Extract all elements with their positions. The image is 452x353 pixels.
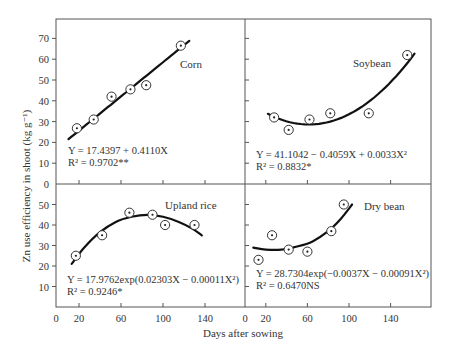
data-point xyxy=(161,220,170,229)
data-point xyxy=(89,115,98,124)
y-tick-label: 20 xyxy=(39,137,50,148)
fit-curve-dry-bean xyxy=(253,205,352,250)
data-point xyxy=(303,247,312,256)
y-tick-label: 30 xyxy=(39,241,50,252)
data-point xyxy=(326,109,335,118)
x-tick-label: 60 xyxy=(116,313,127,324)
data-point xyxy=(190,220,199,229)
equation-soybean: Y = 41.1042 − 0.4059X + 0.0033X² xyxy=(256,149,407,160)
y-tick-label: 30 xyxy=(39,117,50,128)
chart: 1020304050607001020304050020601001400206… xyxy=(0,0,452,353)
x-tick-label: 60 xyxy=(302,313,313,324)
data-point xyxy=(403,50,412,59)
data-point xyxy=(148,210,157,219)
x-tick-label: 0 xyxy=(53,313,58,324)
x-tick-label: 100 xyxy=(341,313,357,324)
data-point xyxy=(267,231,276,240)
y-tick-label: 10 xyxy=(39,282,50,293)
data-point xyxy=(107,92,116,101)
data-point xyxy=(72,124,81,133)
data-point xyxy=(125,208,134,217)
data-point xyxy=(327,227,336,236)
equation-upland-rice: Y = 17.9762exp(0.02303X − 0.00011X²) xyxy=(67,274,239,286)
x-tick-label: 20 xyxy=(74,313,85,324)
data-point xyxy=(98,231,107,240)
r2-upland-rice: R² = 0.9246* xyxy=(67,286,122,297)
y-tick-label: 50 xyxy=(39,200,50,211)
data-point xyxy=(284,245,293,254)
x-tick-label: 140 xyxy=(383,313,399,324)
y-axis-title: Zn use efficiency in shoot (kg g⁻¹) xyxy=(20,109,33,262)
y-tick-label: 60 xyxy=(39,54,50,65)
equation-corn: Y = 17.4397 + 0.4110X xyxy=(68,145,168,156)
x-tick-label: 20 xyxy=(261,313,272,324)
data-point xyxy=(71,251,80,260)
y-tick-label: 40 xyxy=(39,96,50,107)
x-tick-label: 100 xyxy=(155,313,171,324)
data-point xyxy=(364,109,373,118)
data-point xyxy=(254,255,263,264)
r2-dry-bean: R² = 0.6470NS xyxy=(256,280,320,291)
data-point xyxy=(339,200,348,209)
panel-label-upland-rice: Upland rice xyxy=(165,199,217,211)
panel-label-soybean: Soybean xyxy=(353,57,391,69)
fit-curve-soybean xyxy=(268,54,415,125)
data-point xyxy=(176,41,185,50)
fit-curve-upland-rice xyxy=(72,215,202,264)
data-point xyxy=(305,115,314,124)
y-tick-label: 20 xyxy=(39,261,50,272)
panel-label-dry-bean: Dry bean xyxy=(364,200,405,212)
data-point xyxy=(126,85,135,94)
r2-soybean: R² = 0.8832* xyxy=(256,161,311,172)
x-tick-label: 140 xyxy=(197,313,213,324)
panel-label-corn: Corn xyxy=(180,58,203,70)
y-tick-label: 10 xyxy=(39,158,50,169)
y-tick-label: 50 xyxy=(39,75,50,86)
x-tick-label: 0 xyxy=(242,313,247,324)
y-tick-label: 0 xyxy=(44,179,49,190)
equation-dry-bean: Y = 28.7304exp(−0.0037X − 0.00091X²) xyxy=(256,268,430,280)
x-axis-title: Days after sowing xyxy=(203,327,284,339)
r2-corn: R² = 0.9702** xyxy=(68,157,129,168)
data-point xyxy=(284,125,293,134)
data-point xyxy=(270,113,279,122)
y-tick-label: 70 xyxy=(39,33,50,44)
y-tick-label: 40 xyxy=(39,220,50,231)
data-point xyxy=(142,81,151,90)
